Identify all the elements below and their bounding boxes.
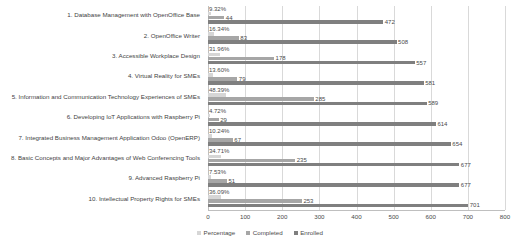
bar-completed <box>208 199 302 203</box>
bar-percentage <box>208 12 211 16</box>
x-axis: 0100200300400500600700800 <box>208 210 505 224</box>
bar-group: 13.60%79581 <box>208 67 505 87</box>
category-label: 3. Accessible Workplace Design <box>112 53 200 60</box>
bar-group: 4.72%29614 <box>208 108 505 128</box>
data-label: 9.32% <box>209 6 226 12</box>
bar-enrolled <box>208 81 424 85</box>
data-label: 16.34% <box>209 26 229 32</box>
bar-enrolled <box>208 122 436 126</box>
bar-enrolled <box>208 102 427 106</box>
bar-enrolled <box>208 142 451 146</box>
x-axis-tick-label: 600 <box>426 213 436 220</box>
x-axis-tick-label: 0 <box>206 213 209 220</box>
data-label: 589 <box>428 100 438 106</box>
data-label: 654 <box>452 141 462 147</box>
bar-percentage <box>208 32 214 36</box>
bar-group: 7.53%51677 <box>208 169 505 189</box>
data-label: 701 <box>470 202 480 208</box>
bar-completed <box>208 138 233 142</box>
data-label: 34.71% <box>209 148 229 154</box>
legend-item-percentage[interactable]: Percentage <box>197 229 235 236</box>
chart-legend: Percentage Completed Enrolled <box>0 229 520 236</box>
plot-area: 9.32%4447216.34%8350831.96%17855713.60%7… <box>208 6 505 210</box>
bar-percentage <box>208 134 212 138</box>
bar-enrolled <box>208 61 415 65</box>
data-label: 508 <box>398 39 408 45</box>
category-label: 8. Basic Concepts and Major Advantages o… <box>11 155 200 162</box>
legend-swatch-icon <box>246 231 250 235</box>
bar-enrolled <box>208 20 383 24</box>
bar-percentage <box>208 175 211 179</box>
bar-completed <box>208 16 224 20</box>
bar-percentage <box>208 93 226 97</box>
bar-group: 31.96%178557 <box>208 47 505 67</box>
bar-enrolled <box>208 40 397 44</box>
bar-completed <box>208 159 295 163</box>
bar-completed <box>208 77 237 81</box>
legend-swatch-icon <box>197 231 201 235</box>
data-label: 13.60% <box>209 67 229 73</box>
bar-enrolled <box>208 204 468 208</box>
bar-percentage <box>208 155 221 159</box>
category-axis: 1. Database Management with OpenOffice B… <box>0 6 204 210</box>
bar-percentage <box>208 73 213 77</box>
category-label: 10. Intellectual Property Rights for SME… <box>89 196 200 203</box>
x-axis-tick-label: 700 <box>463 213 473 220</box>
bar-percentage <box>208 53 220 57</box>
data-label: 48.39% <box>209 87 229 93</box>
legend-label: Percentage <box>204 229 236 236</box>
bar-group: 16.34%83508 <box>208 26 505 46</box>
legend-swatch-icon <box>294 231 298 235</box>
bar-enrolled <box>208 183 459 187</box>
data-label: 677 <box>461 162 471 168</box>
bar-enrolled <box>208 163 459 167</box>
x-axis-tick-label: 400 <box>351 213 361 220</box>
category-label: 5. Information and Communication Technol… <box>12 94 200 101</box>
legend-label: Enrolled <box>300 229 323 236</box>
data-label: 36.09% <box>209 189 229 195</box>
data-label: 10.24% <box>209 128 229 134</box>
bar-percentage <box>208 114 210 118</box>
bar-group: 48.39%285589 <box>208 88 505 108</box>
bar-chart: 1. Database Management with OpenOffice B… <box>0 0 520 245</box>
category-label: 2. OpenOffice Writer <box>144 33 200 40</box>
category-label: 1. Database Management with OpenOffice B… <box>67 12 200 19</box>
bar-group: 9.32%44472 <box>208 6 505 26</box>
bar-completed <box>208 97 314 101</box>
x-axis-tick-label: 300 <box>314 213 324 220</box>
data-label: 4.72% <box>209 108 226 114</box>
legend-item-completed[interactable]: Completed <box>246 229 282 236</box>
data-label: 7.53% <box>209 169 226 175</box>
x-axis-tick-label: 800 <box>500 213 510 220</box>
data-label: 677 <box>461 182 471 188</box>
x-axis-tick-label: 500 <box>388 213 398 220</box>
data-label: 472 <box>385 19 395 25</box>
gridline <box>505 6 506 210</box>
category-label: 4. Virtual Reality for SMEs <box>128 73 200 80</box>
category-label: 6. Developing IoT Applications with Rasp… <box>67 114 200 121</box>
x-axis-tick-label: 200 <box>277 213 287 220</box>
category-label: 7. Integrated Business Management Applic… <box>18 135 200 142</box>
bar-completed <box>208 179 227 183</box>
data-label: 581 <box>425 80 435 86</box>
bar-completed <box>208 118 219 122</box>
bar-completed <box>208 57 274 61</box>
category-label: 9. Advanced Raspberry Pi <box>128 175 200 182</box>
bar-group: 34.71%235677 <box>208 149 505 169</box>
bar-group: 36.09%253701 <box>208 190 505 210</box>
x-axis-tick-label: 100 <box>240 213 250 220</box>
bar-completed <box>208 36 239 40</box>
data-label: 31.96% <box>209 46 229 52</box>
bar-percentage <box>208 195 221 199</box>
legend-label: Completed <box>253 229 283 236</box>
data-label: 557 <box>416 60 426 66</box>
legend-item-enrolled[interactable]: Enrolled <box>294 229 323 236</box>
data-label: 614 <box>437 121 447 127</box>
bar-group: 10.24%67654 <box>208 128 505 148</box>
